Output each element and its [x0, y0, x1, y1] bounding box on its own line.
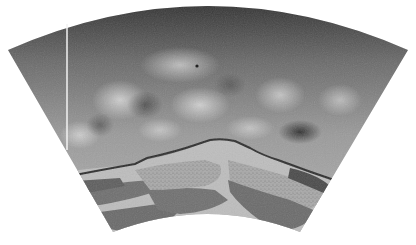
- wedge-body: [0, 0, 416, 245]
- point-marker: [195, 64, 198, 67]
- figure-canvas: [0, 0, 416, 245]
- mantle-section-illustration: [0, 0, 416, 245]
